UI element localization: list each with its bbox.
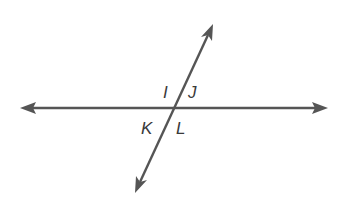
angle-label-j: J (187, 83, 197, 102)
angle-label-i: I (163, 83, 168, 102)
angle-label-k: K (141, 119, 153, 138)
angle-label-l: L (176, 119, 185, 138)
angle-diagram: I J K L (0, 0, 345, 215)
